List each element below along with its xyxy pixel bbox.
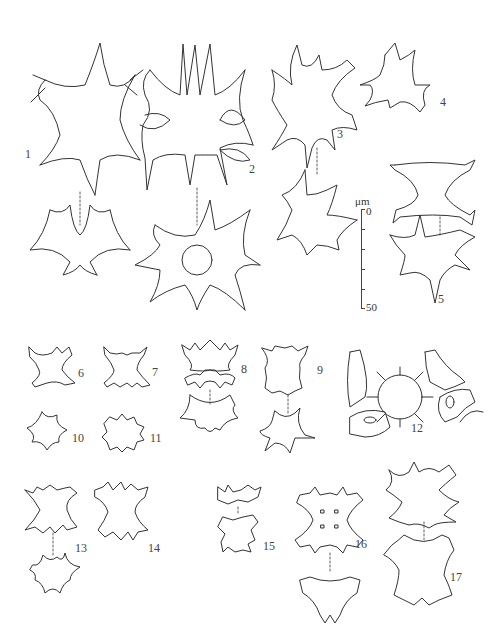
figure-6-label: 6 bbox=[78, 367, 84, 379]
figure-4-label: 4 bbox=[440, 96, 446, 108]
figure-plate: 1 2 3 4 μm 0 50 bbox=[0, 0, 490, 641]
figure-13-label: 13 bbox=[75, 542, 87, 554]
figure-15-label: 15 bbox=[263, 540, 275, 552]
scale-tick bbox=[361, 209, 365, 210]
figure-8-label: 8 bbox=[241, 363, 247, 375]
scale-tick bbox=[361, 289, 365, 290]
figure-1-label: 1 bbox=[25, 148, 31, 160]
figure-2-label: 2 bbox=[249, 163, 255, 175]
scale-max-label: 50 bbox=[366, 301, 377, 313]
figure-3-label: 3 bbox=[337, 128, 343, 140]
figure-16-label: 16 bbox=[355, 538, 367, 550]
figure-14-label: 14 bbox=[148, 542, 160, 554]
figure-9-label: 9 bbox=[317, 364, 323, 376]
figure-10-label: 10 bbox=[72, 432, 84, 444]
figure-11-label: 11 bbox=[150, 432, 162, 444]
scale-tick bbox=[361, 308, 365, 309]
scale-tick bbox=[361, 249, 365, 250]
figure-7-label: 7 bbox=[152, 366, 158, 378]
figure-17-label: 17 bbox=[450, 571, 462, 583]
scale-line bbox=[361, 209, 362, 309]
scale-tick bbox=[361, 269, 365, 270]
scale-min-label: 0 bbox=[366, 205, 372, 217]
figure-5-label: 5 bbox=[438, 293, 444, 305]
scale-tick bbox=[361, 229, 365, 230]
scale-bar: μm 0 50 bbox=[355, 195, 385, 315]
figure-12-label: 12 bbox=[411, 422, 423, 434]
